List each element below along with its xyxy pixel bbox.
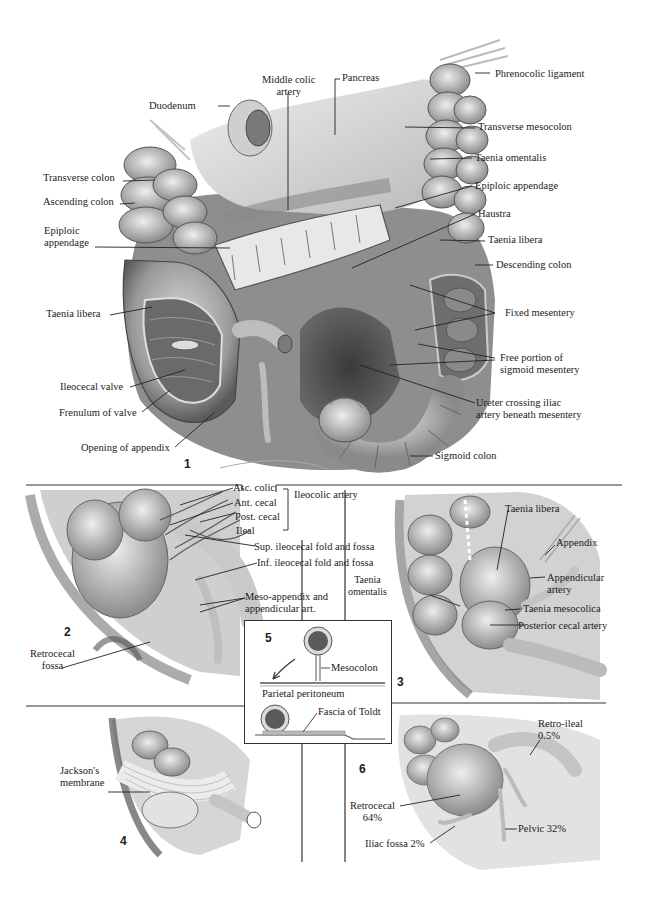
label-ureter-crossing-iliac: Ureter crossing iliac artery beneath mes…	[476, 397, 582, 421]
panel-3-art	[399, 492, 600, 700]
label-pelvic: Pelvic 32%	[518, 823, 566, 835]
label-appendicular-artery: Appendicular artery	[547, 572, 604, 596]
panel-number-5: 5	[265, 631, 272, 645]
label-middle-colic-artery: Middle colic artery	[262, 74, 315, 98]
label-retro-ileal: Retro-ileal 0.5%	[538, 718, 583, 742]
panel-number-3: 3	[397, 675, 404, 689]
label-ant-cecal: Ant. cecal	[234, 497, 277, 509]
panel-4-art	[112, 716, 261, 855]
label-frenulum-of-valve: Frenulum of valve	[59, 407, 137, 419]
label-haustra: Haustra	[478, 208, 511, 220]
label-asc-colic: Asc. colic	[233, 482, 275, 494]
panel-number-2: 2	[64, 625, 71, 639]
label-appendix: Appendix	[556, 537, 597, 549]
label-duodenum: Duodenum	[149, 100, 196, 112]
label-parietal-peritoneum: Parietal peritoneum	[262, 688, 345, 700]
label-descending-colon: Descending colon	[496, 259, 572, 271]
label-pancreas: Pancreas	[342, 72, 379, 84]
label-transverse-mesocolon: Transverse mesocolon	[478, 121, 572, 133]
label-ileal: Ileal	[236, 525, 255, 537]
label-meso-appendix: Meso-appendix and appendicular art.	[245, 591, 328, 615]
panel-5-inset: 5 Mesocolon Parietal peritoneum Fascia o…	[244, 620, 392, 744]
label-jacksons-membrane: Jackson's membrane	[60, 765, 104, 789]
label-post-cecal: Post. cecal	[235, 511, 280, 523]
label-taenia-libera-left: Taenia libera	[46, 308, 100, 320]
panel-number-4: 4	[120, 834, 127, 848]
label-retrocecal: Retrocecal 64%	[350, 800, 395, 824]
panel-number-6: 6	[359, 762, 366, 776]
label-fascia-of-toldt: Fascia of Toldt	[318, 706, 381, 718]
label-epiploic-appendage-right: Epiploic appendage	[475, 180, 558, 192]
label-taenia-libera-right: Taenia libera	[488, 234, 542, 246]
label-ileocolic-artery: Ileocolic artery	[294, 489, 358, 501]
label-fixed-mesentery: Fixed mesentery	[505, 307, 575, 319]
label-mesocolon: Mesocolon	[331, 662, 378, 674]
label-taenia-omentalis: Taenia omentalis	[475, 152, 546, 164]
label-taenia-omentalis-3: Taenia omentalis	[348, 574, 387, 598]
label-inf-ileocecal-fold: Inf. ileocecal fold and fossa	[257, 557, 373, 569]
label-opening-of-appendix: Opening of appendix	[81, 442, 170, 454]
label-sigmoid-colon: Sigmoid colon	[435, 450, 497, 462]
label-transverse-colon: Transverse colon	[43, 172, 115, 184]
label-free-portion-sigmoid-mesentery: Free portion of sigmoid mesentery	[500, 352, 580, 376]
anatomy-plate: 1 2 3 4 6 Middle colic artery Pancreas P…	[0, 0, 652, 915]
label-sup-ileocecal-fold: Sup. ileocecal fold and fossa	[254, 541, 374, 553]
label-ascending-colon: Ascending colon	[43, 196, 114, 208]
panel-number-1: 1	[184, 457, 191, 471]
label-iliac-fossa: Iliac fossa 2%	[365, 838, 424, 850]
label-retrocecal-fossa: Retrocecal fossa	[30, 648, 75, 672]
label-epiploic-appendage-left: Epiploic appendage	[44, 225, 89, 249]
label-taenia-libera-3: Taenia libera	[505, 503, 559, 515]
label-phrenocolic-ligament: Phrenocolic ligament	[495, 68, 585, 80]
label-ileocecal-valve: Ileocecal valve	[60, 381, 123, 393]
label-posterior-cecal-artery: Posterior cecal artery	[518, 620, 607, 632]
label-taenia-mesocolica: Taenia mesocolica	[523, 603, 601, 615]
